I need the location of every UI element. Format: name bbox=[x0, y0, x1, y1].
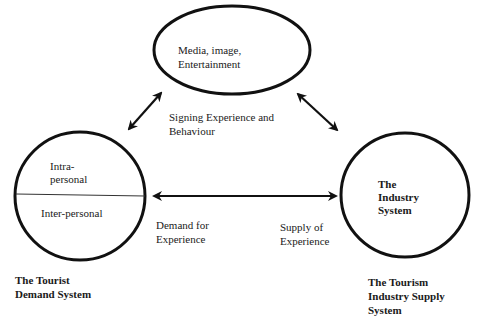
intra-personal-line1: Intra- bbox=[50, 159, 74, 173]
demand-for-line1: Demand for bbox=[156, 218, 209, 232]
supply-of-line2: Experience bbox=[280, 234, 329, 248]
demand-caption-line2: Demand System bbox=[15, 287, 91, 301]
industry-caption-line3: System bbox=[368, 303, 402, 317]
industry-label-line2: Industry bbox=[378, 190, 419, 204]
supply-of-line1: Supply of bbox=[280, 220, 323, 234]
signing-label-line2: Behaviour bbox=[169, 124, 215, 138]
industry-label-line3: System bbox=[378, 203, 412, 217]
industry-caption-line1: The Tourism bbox=[368, 275, 428, 289]
demand-divider bbox=[16, 194, 145, 196]
demand-for-line2: Experience bbox=[156, 232, 205, 246]
media-label-line2: Entertainment bbox=[178, 57, 240, 71]
media-label-line1: Media, image, bbox=[178, 43, 241, 57]
right-diagonal-arrow bbox=[298, 94, 337, 130]
left-diagonal-arrow bbox=[129, 93, 161, 129]
industry-caption-line2: Industry Supply bbox=[368, 289, 445, 303]
industry-label-line1: The bbox=[378, 177, 396, 191]
signing-label-line1: Signing Experience and bbox=[169, 110, 274, 124]
intra-personal-line2: personal bbox=[50, 172, 87, 186]
inter-personal-label: Inter-personal bbox=[41, 206, 102, 220]
demand-caption-line1: The Tourist bbox=[15, 273, 70, 287]
